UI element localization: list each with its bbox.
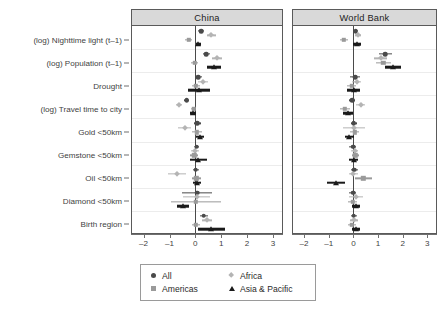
panel-world-bank-header: World Bank xyxy=(293,10,436,26)
legend-item: All xyxy=(149,271,227,281)
marker-square-icon xyxy=(353,130,357,134)
legend-item: Asia & Pacific xyxy=(227,284,293,294)
marker-square-icon xyxy=(194,199,198,203)
marker-diamond-icon xyxy=(174,171,180,177)
marker-tri-icon xyxy=(195,157,201,162)
y-axis-label: (log) Population (t–1) xyxy=(46,58,122,67)
coefficient-plot-figure: (log) Nighttime light (t–1)(log) Populat… xyxy=(0,0,438,316)
legend-row: AllAfrica xyxy=(149,269,307,282)
x-axis-tick xyxy=(273,234,274,238)
x-axis-tick-label: 2 xyxy=(245,239,250,248)
legend-label: Asia & Pacific xyxy=(240,284,293,294)
marker-diamond-icon xyxy=(214,55,220,61)
marker-square-icon xyxy=(186,38,190,42)
legend-marker-shape xyxy=(151,273,156,278)
x-axis-tick-label: –1 xyxy=(165,239,174,248)
y-axis-tick xyxy=(124,85,129,86)
legend-marker-circle-icon xyxy=(149,271,158,280)
x-axis-tick-label: –1 xyxy=(324,239,333,248)
legend-marker-shape xyxy=(229,286,235,291)
x-axis-tick xyxy=(247,234,248,238)
x-axis-tick xyxy=(427,234,428,238)
grid-line xyxy=(132,211,282,212)
x-axis-tick-label: 0 xyxy=(351,239,356,248)
panel-china-header: China xyxy=(132,10,282,26)
grid-line xyxy=(293,165,436,166)
grid-line xyxy=(293,118,436,119)
marker-tri-icon xyxy=(353,226,359,231)
legend-marker-square-icon xyxy=(149,284,158,293)
marker-diamond-icon xyxy=(182,125,188,131)
marker-diamond-icon xyxy=(355,32,361,38)
x-axis-china: –2–10123 xyxy=(131,234,283,256)
marker-diamond-icon xyxy=(354,79,360,85)
legend-item: Africa xyxy=(227,271,262,281)
marker-tri-icon xyxy=(354,41,360,46)
grid-line xyxy=(132,165,282,166)
x-axis-tick xyxy=(329,234,330,238)
y-axis-label: Birth region xyxy=(81,220,122,229)
x-axis-tick-label: 1 xyxy=(376,239,381,248)
y-axis-label: Drought xyxy=(93,81,122,90)
x-axis-tick-label: 1 xyxy=(219,239,224,248)
x-axis-tick-label: 0 xyxy=(193,239,198,248)
marker-square-icon xyxy=(194,222,198,226)
y-axis-label: Gemstone <50km xyxy=(58,151,122,160)
marker-diamond-icon xyxy=(358,102,364,108)
marker-tri-icon xyxy=(351,88,357,93)
marker-tri-icon xyxy=(208,226,214,231)
marker-circle-icon xyxy=(184,98,189,103)
x-axis-line xyxy=(292,234,437,235)
legend-marker-shape xyxy=(151,286,156,291)
marker-tri-icon xyxy=(351,157,357,162)
legend-marker-diamond-icon xyxy=(227,271,236,280)
x-axis-tick xyxy=(304,234,305,238)
y-axis-tick xyxy=(124,155,129,156)
marker-tri-icon xyxy=(194,180,200,185)
marker-diamond-icon xyxy=(350,171,356,177)
grid-line xyxy=(293,188,436,189)
marker-circle-icon xyxy=(350,98,355,103)
grid-line xyxy=(132,95,282,96)
grid-line xyxy=(293,211,436,212)
marker-tri-icon xyxy=(345,111,351,116)
marker-tri-icon xyxy=(197,134,203,139)
marker-tri-icon xyxy=(190,111,196,116)
marker-tri-icon xyxy=(180,203,186,208)
legend-item: Americas xyxy=(149,284,227,294)
y-axis-tick xyxy=(124,108,129,109)
marker-tri-icon xyxy=(196,88,202,93)
grid-line xyxy=(293,72,436,73)
grid-line xyxy=(132,49,282,50)
y-axis-tick xyxy=(124,39,129,40)
x-axis-tick-label: –2 xyxy=(139,239,148,248)
x-axis-world-bank: –2–10123 xyxy=(292,234,437,256)
y-axis-tick xyxy=(124,224,129,225)
marker-tri-icon xyxy=(333,180,339,185)
legend: AllAfricaAmericasAsia & Pacific xyxy=(140,264,316,301)
marker-diamond-icon xyxy=(208,32,214,38)
marker-diamond-icon xyxy=(176,102,182,108)
legend-label: All xyxy=(162,271,172,281)
panel-china-plot-area xyxy=(132,26,282,233)
marker-circle-icon xyxy=(383,52,388,57)
legend-marker-shape xyxy=(228,272,234,278)
x-axis-line xyxy=(131,234,283,235)
x-axis-tick-label: 2 xyxy=(400,239,405,248)
panel-world-bank: World Bank xyxy=(292,9,437,234)
legend-label: Africa xyxy=(240,271,262,281)
y-axis-label: (log) Travel time to city xyxy=(41,104,122,113)
grid-line xyxy=(132,118,282,119)
marker-square-icon xyxy=(342,38,346,42)
legend-marker-tri-icon xyxy=(227,284,236,293)
y-axis-tick xyxy=(124,62,129,63)
marker-tri-icon xyxy=(390,65,396,70)
legend-label: Americas xyxy=(162,284,198,294)
y-axis-label: Oil <50km xyxy=(85,174,122,183)
marker-circle-icon xyxy=(196,75,201,80)
y-axis-label: (log) Nighttime light (t–1) xyxy=(33,35,122,44)
marker-tri-icon xyxy=(353,203,359,208)
grid-line xyxy=(132,142,282,143)
marker-square-icon xyxy=(381,61,385,65)
x-axis-tick-label: –2 xyxy=(300,239,309,248)
